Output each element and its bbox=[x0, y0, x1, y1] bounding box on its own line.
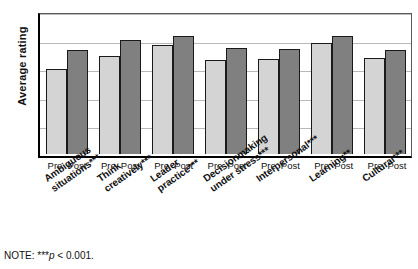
bar-group bbox=[46, 14, 88, 154]
plot-area: 6 5 4 3 2 1 bbox=[38, 13, 412, 158]
y-axis-title: Average rating bbox=[16, 11, 28, 121]
note-prefix: NOTE: *** bbox=[4, 250, 49, 261]
bar-pre bbox=[364, 58, 385, 154]
bar-pre bbox=[205, 60, 226, 154]
category-label-row: Ambiguous situations***Think creatively*… bbox=[38, 175, 412, 245]
bar-pre bbox=[152, 45, 173, 154]
bar-pre bbox=[46, 69, 67, 154]
bar-group bbox=[311, 14, 353, 154]
bar-chart-figure: Average rating 6 5 4 3 2 1 PrePostPrePos… bbox=[0, 0, 418, 269]
note-suffix: < 0.001. bbox=[55, 250, 94, 261]
bar-post bbox=[279, 49, 300, 154]
bar-series-container bbox=[42, 14, 410, 154]
bar-group bbox=[152, 14, 194, 154]
bar-group bbox=[205, 14, 247, 154]
bar-post bbox=[332, 36, 353, 154]
bar-pre bbox=[99, 56, 120, 154]
bar-post bbox=[226, 48, 247, 154]
bar-post bbox=[385, 50, 406, 154]
figure-note: NOTE: ***p < 0.001. bbox=[4, 250, 94, 261]
bar-group bbox=[364, 14, 406, 154]
bar-group bbox=[99, 14, 141, 154]
bar-post bbox=[67, 50, 88, 154]
bar-post bbox=[173, 36, 194, 154]
bar-post bbox=[120, 40, 141, 154]
bar-group bbox=[258, 14, 300, 154]
